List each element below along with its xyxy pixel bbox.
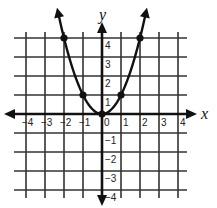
x-axis-right-arrow-icon [186, 109, 197, 119]
data-point [98, 110, 105, 117]
x-axis-label: x [200, 105, 208, 122]
coordinate-plane: −4−3−2−101234−4−3−2−11234 x y [0, 0, 217, 208]
data-point [60, 34, 67, 41]
x-tick-label: 1 [123, 117, 129, 128]
y-tick-label: 3 [105, 59, 111, 70]
y-tick-label: 2 [105, 78, 111, 89]
tick-labels: −4−3−2−101234−4−3−2−11234 [22, 40, 186, 203]
x-axis-left-arrow-icon [4, 109, 15, 119]
data-point [79, 91, 86, 98]
y-tick-label: 4 [105, 40, 111, 51]
x-tick-label: 3 [161, 117, 167, 128]
data-point [136, 34, 143, 41]
x-tick-label: −2 [60, 117, 72, 128]
x-tick-label: 2 [142, 117, 148, 128]
parabola-right-arrow-icon [140, 8, 150, 19]
x-tick-label: −4 [22, 117, 34, 128]
x-tick-label: 4 [180, 117, 186, 128]
y-tick-label: 1 [105, 97, 111, 108]
y-axis-label: y [97, 6, 107, 24]
x-tick-label: −1 [79, 117, 91, 128]
y-tick-label: −1 [105, 135, 117, 146]
y-tick-label: −3 [105, 173, 117, 184]
y-tick-label: −4 [105, 192, 117, 203]
data-point [117, 91, 124, 98]
y-tick-label: −2 [105, 154, 117, 165]
parabola-left-arrow-icon [54, 8, 64, 19]
x-tick-label: −3 [41, 117, 53, 128]
y-axis-up-arrow-icon [97, 22, 107, 33]
x-tick-label: 0 [104, 117, 110, 128]
